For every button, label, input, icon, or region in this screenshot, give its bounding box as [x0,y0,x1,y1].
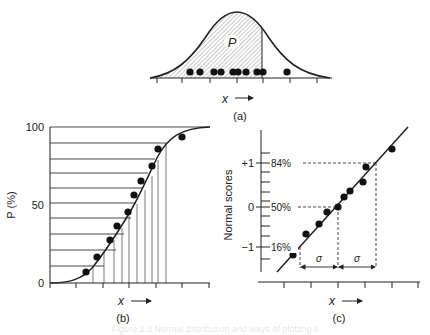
y-tick-0: 0 [38,277,44,289]
y-ticks-c [256,153,270,259]
x-ticks-a [157,78,317,83]
panel-label-b: (b) [116,312,129,324]
figure-caption: Figure 2.3 Normal distribution and ways … [111,324,319,334]
y-axis-label-b: P (%) [5,191,17,218]
panel-b: 100 50 0 P (%) x (b) [5,121,210,324]
pct-84-label: 84% [271,158,291,169]
y-tick-0-c: 0 [248,201,254,213]
area-label-p: P [228,35,237,50]
y-tick-100: 100 [26,121,44,133]
cdf-curve [50,127,210,283]
shaded-area-p [150,12,262,78]
pct-50-label: 50% [271,202,291,213]
x-axis-label-c: x [328,294,336,308]
x-ticks-b [50,283,209,288]
y-tick-plus1: +1 [241,157,254,169]
x-axis-label-b: x [117,294,125,308]
y-axis-label-c: Normal scores [222,169,234,240]
figure: P x (a) [0,0,430,335]
panel-a: P x (a) [150,12,332,122]
x-ticks-c [284,282,418,288]
y-tick-minus1: −1 [241,241,254,253]
x-axis-label-a: x [221,92,229,106]
sample-dots-a [186,68,290,75]
panel-label-a: (a) [233,110,246,122]
sigma-label-right: σ [354,253,361,264]
y-tick-50: 50 [32,199,44,211]
panel-label-c: (c) [333,312,346,324]
sigma-label-left: σ [316,253,323,264]
pct-16-label: 16% [271,242,291,253]
horizontal-guides-b [50,127,210,266]
panel-c: σ σ +1 0 −1 84% 50% 16% Normal scores x [222,127,420,324]
